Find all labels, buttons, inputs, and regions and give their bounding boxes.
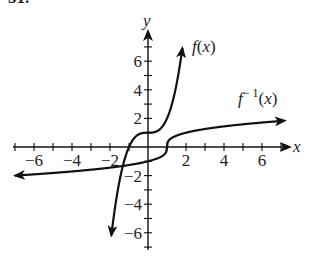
x-tick-label: 4 bbox=[220, 151, 229, 170]
f-inverse-curve-right bbox=[167, 121, 285, 147]
x-tick-label: −4 bbox=[63, 151, 82, 170]
x-tick-label: −2 bbox=[101, 151, 119, 170]
y-tick-label: 6 bbox=[134, 52, 143, 71]
x-tick-label: −6 bbox=[25, 151, 43, 170]
y-tick-label: −4 bbox=[124, 195, 143, 214]
y-tick-label: −2 bbox=[124, 167, 142, 186]
axes bbox=[13, 31, 290, 250]
y-tick-label: 4 bbox=[134, 81, 143, 100]
function-graph: −6−4−2246642−2−4−6xyf(x)f− 1(x) bbox=[0, 0, 310, 265]
y-axis-label: y bbox=[141, 11, 151, 30]
f-inverse-label: f− 1(x) bbox=[238, 86, 277, 108]
f-curve-upper bbox=[148, 48, 182, 133]
x-axis-label: x bbox=[292, 137, 301, 156]
y-tick-label: −6 bbox=[124, 224, 142, 243]
x-tick-label: 6 bbox=[258, 151, 267, 170]
y-tick-label: 2 bbox=[134, 109, 143, 128]
f-label: f(x) bbox=[192, 37, 216, 56]
x-tick-label: 2 bbox=[182, 151, 191, 170]
